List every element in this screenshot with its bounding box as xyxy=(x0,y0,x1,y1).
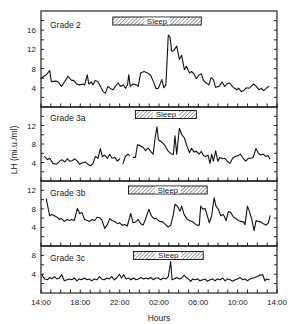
sleep-period-bar: Sleep xyxy=(135,110,196,119)
y-tick-label: 12 xyxy=(27,122,36,131)
panel-title: Grade 2 xyxy=(50,20,81,30)
y-tick-label: 4 xyxy=(32,270,37,279)
sleep-period-bar: Sleep xyxy=(129,186,208,195)
x-axis-label: Hours xyxy=(148,313,171,323)
sleep-period-bar: Sleep xyxy=(133,251,203,260)
y-tick-label: 8 xyxy=(32,65,37,74)
lh-series-line xyxy=(41,35,269,93)
y-tick-label: 8 xyxy=(32,205,37,214)
x-tick-label: 22:00 xyxy=(110,298,131,307)
lh-multipanel-chart: 481216Grade 2Sleep4812Grade 3aSleep4812G… xyxy=(0,0,288,324)
x-tick-label: 02:00 xyxy=(149,298,170,307)
axis-ticks xyxy=(41,21,277,107)
y-tick-label: 4 xyxy=(32,223,37,232)
y-tick-label: 8 xyxy=(32,251,37,260)
sleep-label: Sleep xyxy=(156,110,177,119)
y-tick-label: 16 xyxy=(27,26,36,35)
axis-ticks xyxy=(41,116,277,181)
y-tick-label: 12 xyxy=(27,186,36,195)
sleep-label: Sleep xyxy=(147,17,168,26)
panel-title: Grade 3b xyxy=(50,188,86,198)
sleep-period-bar: Sleep xyxy=(113,17,201,26)
panel-grade-2: 481216Grade 2Sleep xyxy=(27,11,277,107)
x-tick-label: 10:00 xyxy=(228,298,249,307)
x-tick-label: 18:00 xyxy=(70,298,91,307)
x-tick-label: 06:00 xyxy=(188,298,209,307)
y-tick-label: 12 xyxy=(27,45,36,54)
sleep-label: Sleep xyxy=(158,251,179,260)
lh-series-line xyxy=(46,198,270,231)
lh-series-line xyxy=(45,127,270,166)
lh-figure: 481216Grade 2Sleep4812Grade 3aSleep4812G… xyxy=(0,0,288,324)
x-tick-labels: 14:0018:0022:0002:0006:0010:0014:00 xyxy=(31,298,288,307)
x-tick-label: 14:00 xyxy=(267,298,288,307)
y-tick-label: 8 xyxy=(32,140,37,149)
y-tick-label: 4 xyxy=(32,84,37,93)
y-axis-label: LH (mi.u./ml) xyxy=(9,126,19,175)
panel-grade-3c: 48Grade 3cSleep xyxy=(32,246,277,293)
panel-title: Grade 3a xyxy=(50,113,86,123)
x-tick-label: 14:00 xyxy=(31,298,52,307)
sleep-label: Sleep xyxy=(158,186,179,195)
y-tick-label: 4 xyxy=(32,159,37,168)
panel-grade-3a: 4812Grade 3aSleep xyxy=(27,107,277,181)
panel-grade-3b: 4812Grade 3bSleep xyxy=(27,181,277,246)
panels-group: 481216Grade 2Sleep4812Grade 3aSleep4812G… xyxy=(27,11,277,293)
lh-series-line xyxy=(42,262,269,282)
panel-title: Grade 3c xyxy=(50,253,86,263)
axis-ticks xyxy=(41,190,277,246)
